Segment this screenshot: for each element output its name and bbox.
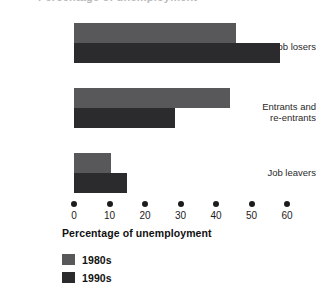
x-tick-label-50: 50 — [237, 210, 267, 221]
legend-label-1980s: 1980s — [82, 254, 112, 266]
bar-entrants-1980s — [74, 88, 230, 108]
x-tick-dot-0 — [71, 201, 77, 207]
plot-area: Job losers Entrants and re-entrants Job … — [0, 0, 316, 302]
x-tick-dot-20 — [142, 201, 148, 207]
x-tick-label-20: 20 — [130, 210, 160, 221]
bar-job-losers-1990s — [74, 43, 280, 63]
bar-job-leavers-1980s — [74, 153, 111, 173]
x-tick-dot-30 — [178, 201, 184, 207]
legend-item-1990s: 1990s — [62, 270, 112, 285]
x-tick-label-0: 0 — [59, 210, 89, 221]
x-tick-label-40: 40 — [201, 210, 231, 221]
bar-job-leavers-1990s — [74, 173, 127, 193]
legend: 1980s 1990s — [62, 252, 112, 288]
x-axis-title: Percentage of unemployment — [62, 227, 212, 239]
x-tick-dot-10 — [107, 201, 113, 207]
legend-item-1980s: 1980s — [62, 252, 112, 267]
bar-entrants-1990s — [74, 108, 175, 128]
x-tick-dot-50 — [249, 201, 255, 207]
legend-swatch-1990s-icon — [62, 272, 75, 283]
unemployment-bar-chart: Percentage of unemployment Job losers En… — [0, 0, 316, 302]
legend-label-1990s: 1990s — [82, 272, 112, 284]
category-label-entrants-and-re-entrants: Entrants and re-entrants — [246, 101, 316, 123]
x-tick-dot-60 — [284, 201, 290, 207]
x-tick-dot-40 — [213, 201, 219, 207]
x-tick-label-60: 60 — [272, 210, 302, 221]
legend-swatch-1980s-icon — [62, 254, 75, 265]
category-label-job-leavers: Job leavers — [246, 167, 316, 178]
bar-job-losers-1980s — [74, 23, 236, 43]
x-tick-label-30: 30 — [166, 210, 196, 221]
x-tick-label-10: 10 — [95, 210, 125, 221]
